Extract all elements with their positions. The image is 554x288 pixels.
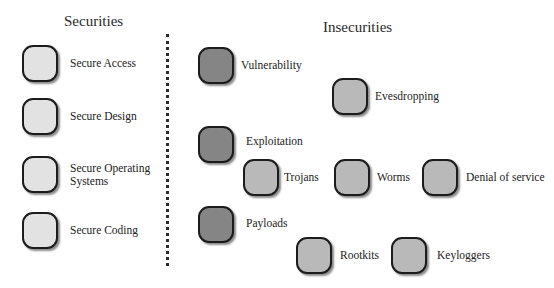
- node-secure-coding: Secure Coding: [22, 212, 138, 249]
- exploitation-box: [198, 126, 234, 163]
- trojans-label: Trojans: [284, 171, 319, 184]
- secure-os-label: Secure Operating Systems: [70, 162, 150, 188]
- node-secure-access: Secure Access: [22, 45, 136, 82]
- secure-os-label-line2: Systems: [70, 175, 108, 187]
- node-rootkits: Rootkits: [296, 237, 379, 274]
- payloads-box: [198, 206, 234, 243]
- vulnerability-label: Vulnerability: [241, 59, 302, 72]
- keyloggers-label: Keyloggers: [437, 249, 490, 262]
- payloads-label: Payloads: [246, 217, 288, 230]
- node-trojans: Trojans: [243, 159, 319, 196]
- column-divider: [166, 34, 169, 266]
- keyloggers-box: [391, 237, 427, 274]
- node-evesdropping: Evesdropping: [332, 78, 439, 115]
- denial-of-service-box: [422, 159, 458, 196]
- node-denial-of-service: Denial of service: [422, 159, 545, 196]
- secure-access-label: Secure Access: [70, 57, 136, 70]
- rootkits-box: [296, 237, 332, 274]
- secure-os-label-line1: Secure Operating: [70, 162, 150, 174]
- node-keyloggers: Keyloggers: [391, 237, 490, 274]
- secure-design-box: [22, 98, 58, 135]
- node-payloads: Payloads: [198, 206, 288, 243]
- rootkits-label: Rootkits: [340, 249, 379, 262]
- worms-box: [334, 159, 370, 196]
- vulnerability-box: [198, 47, 234, 84]
- node-secure-os: Secure Operating Systems: [22, 156, 150, 193]
- node-secure-design: Secure Design: [22, 98, 137, 135]
- secure-os-box: [22, 156, 58, 193]
- insecurities-heading: Insecurities: [323, 19, 392, 36]
- node-vulnerability: Vulnerability: [198, 47, 302, 84]
- secure-coding-label: Secure Coding: [70, 224, 138, 237]
- exploitation-label: Exploitation: [246, 135, 303, 148]
- secure-coding-box: [22, 212, 58, 249]
- securities-heading: Securities: [64, 13, 123, 30]
- trojans-box: [243, 159, 279, 196]
- secure-access-box: [22, 45, 58, 82]
- node-worms: Worms: [334, 159, 410, 196]
- worms-label: Worms: [377, 171, 410, 184]
- evesdropping-label: Evesdropping: [375, 90, 439, 103]
- denial-of-service-label: Denial of service: [466, 171, 545, 184]
- node-exploitation: Exploitation: [198, 126, 303, 163]
- secure-design-label: Secure Design: [70, 110, 137, 123]
- evesdropping-box: [332, 78, 368, 115]
